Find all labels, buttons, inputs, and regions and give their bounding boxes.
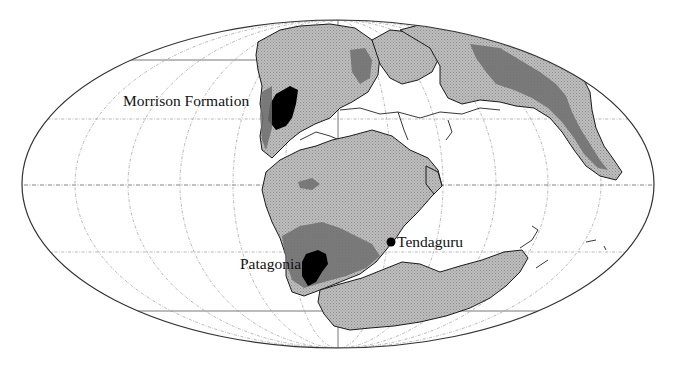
label-morrison-formation: Morrison Formation xyxy=(123,93,249,109)
tendaguru-site-marker xyxy=(387,238,396,247)
label-tendaguru: Tendaguru xyxy=(397,234,463,250)
map-canvas xyxy=(0,0,677,365)
label-patagonia: Patagonia xyxy=(240,256,301,272)
paleogeographic-map: Morrison Formation Patagonia Tendaguru xyxy=(0,0,677,365)
